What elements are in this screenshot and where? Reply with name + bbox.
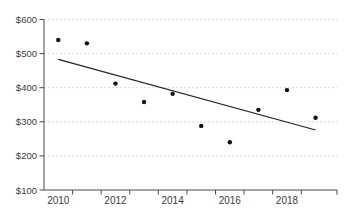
chart-canvas: $100$200$300$400$500$6002010201220142016… bbox=[0, 0, 344, 223]
scatter-chart-figure: $100$200$300$400$500$6002010201220142016… bbox=[0, 0, 344, 223]
x-axis-tick-label: 2010 bbox=[47, 195, 70, 206]
data-point bbox=[199, 124, 203, 128]
x-axis-tick-label: 2016 bbox=[219, 195, 242, 206]
x-axis-tick-label: 2014 bbox=[162, 195, 185, 206]
y-axis-tick-label: $600 bbox=[16, 14, 37, 25]
y-axis-tick-label: $300 bbox=[16, 116, 37, 127]
y-axis-tick-label: $200 bbox=[16, 150, 37, 161]
data-point bbox=[285, 88, 289, 92]
data-point bbox=[56, 38, 60, 42]
data-point bbox=[85, 41, 89, 45]
data-point bbox=[256, 108, 260, 112]
y-axis-tick-label: $500 bbox=[16, 48, 37, 59]
x-axis-tick-label: 2018 bbox=[276, 195, 299, 206]
data-point bbox=[313, 116, 317, 120]
data-point bbox=[228, 140, 232, 144]
x-axis-tick-label: 2012 bbox=[104, 195, 127, 206]
y-axis-tick-label: $100 bbox=[16, 185, 37, 196]
data-point bbox=[142, 100, 146, 104]
y-axis-tick-label: $400 bbox=[16, 82, 37, 93]
data-point bbox=[113, 81, 117, 85]
data-point bbox=[170, 92, 174, 96]
